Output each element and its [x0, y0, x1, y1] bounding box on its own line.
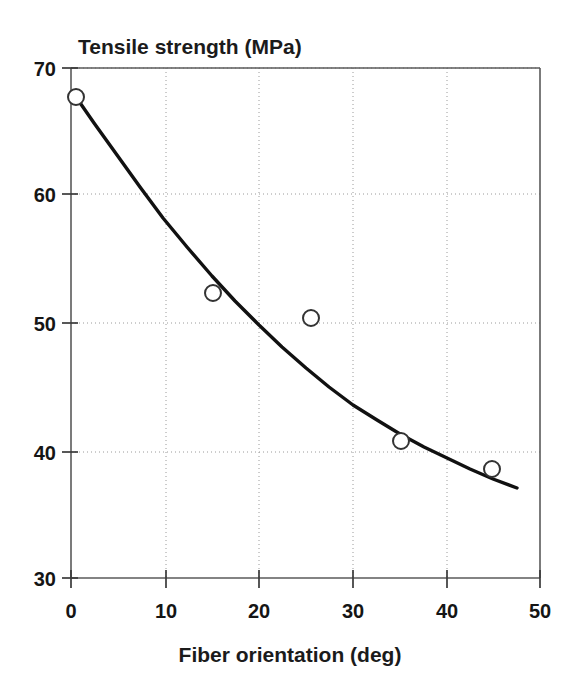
- x-tick-label-30: 30: [342, 600, 364, 622]
- data-point: [68, 89, 84, 105]
- data-point: [484, 461, 500, 477]
- data-point: [393, 433, 409, 449]
- x-tick-label-10: 10: [155, 600, 177, 622]
- x-tick-label-40: 40: [436, 600, 458, 622]
- y-axis-title: Tensile strength (MPa): [78, 35, 302, 58]
- x-axis-title: Fiber orientation (deg): [179, 643, 402, 666]
- y-tick-label-30: 30: [34, 568, 56, 590]
- x-tick-label-0: 0: [65, 600, 76, 622]
- chart-figure: 70 60 50 40 30 0 10 20 30 40 50 Tensile …: [0, 0, 576, 681]
- data-point: [205, 285, 221, 301]
- y-tick-label-40: 40: [34, 442, 56, 464]
- tensile-strength-plot: 70 60 50 40 30 0 10 20 30 40 50 Tensile …: [0, 0, 576, 681]
- x-tick-label-50: 50: [529, 600, 551, 622]
- y-tick-label-50: 50: [34, 313, 56, 335]
- plot-background: [0, 0, 576, 681]
- data-point: [303, 310, 319, 326]
- y-tick-label-60: 60: [34, 184, 56, 206]
- y-tick-label-70: 70: [34, 58, 56, 80]
- x-tick-label-20: 20: [248, 600, 270, 622]
